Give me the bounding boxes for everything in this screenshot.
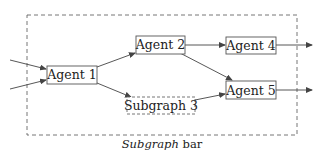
outer-subgraph-label-italic: Subgraph: [122, 137, 179, 151]
edge-subgraph3-agent5: [195, 94, 225, 100]
node-agent2[interactable]: Agent 2: [135, 36, 185, 54]
diagram-canvas: Agent 1 Agent 2 Agent 4 Agent 5 Subgraph…: [0, 0, 323, 159]
edge-agent2-agent5: [180, 53, 232, 80]
node-agent1[interactable]: Agent 1: [46, 66, 97, 84]
edge-agent1-subgraph3: [97, 83, 131, 97]
node-subgraph3-label: Subgraph 3: [124, 98, 198, 113]
edge-input1-agent1: [10, 60, 46, 69]
node-agent4[interactable]: Agent 4: [225, 37, 276, 54]
node-agent2-label: Agent 2: [135, 37, 185, 52]
node-agent4-label: Agent 4: [225, 38, 275, 53]
outer-subgraph-label: Subgraph bar: [122, 137, 203, 151]
node-subgraph3[interactable]: Subgraph 3: [124, 97, 198, 114]
edge-input2-agent1: [10, 80, 46, 89]
node-agent5[interactable]: Agent 5: [225, 81, 276, 99]
node-agent5-label: Agent 5: [225, 83, 275, 98]
edge-agent1-agent2: [97, 53, 135, 67]
outer-subgraph-label-rest: bar: [179, 137, 203, 151]
node-agent1-label: Agent 1: [46, 67, 96, 82]
